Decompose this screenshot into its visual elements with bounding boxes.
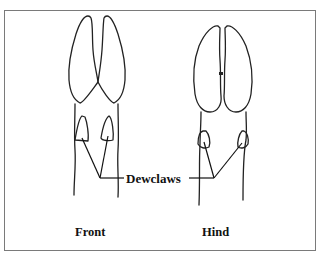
hind-label: Hind <box>202 225 229 239</box>
dewclaws-label: Dewclaws <box>126 171 181 186</box>
hoof-diagram: Dewclaws Front Hind <box>0 0 325 260</box>
front-right-dewclaw <box>101 116 113 141</box>
front-leg-left-edge <box>74 104 75 195</box>
diagram-canvas: Dewclaws Front Hind <box>0 0 325 260</box>
hind-leg-left-edge <box>199 112 201 205</box>
front-left-dewclaw <box>75 116 88 141</box>
front-left-toe <box>69 16 98 103</box>
front-right-toe <box>98 16 125 103</box>
hind-right-toe <box>224 26 252 112</box>
front-hoof <box>69 16 125 197</box>
hind-leg-right-edge <box>243 112 246 200</box>
front-leg-right-edge <box>118 104 119 197</box>
leader-hind-right <box>214 143 242 178</box>
leader-front-left <box>82 138 100 178</box>
hind-toe-cleft-mark <box>219 72 223 75</box>
hind-left-toe <box>194 26 221 112</box>
leader-front-right <box>100 136 108 178</box>
front-label: Front <box>75 225 106 239</box>
